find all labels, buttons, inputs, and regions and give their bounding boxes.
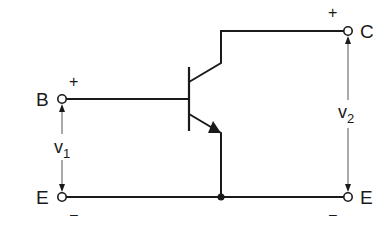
label-emitter-right: E	[360, 187, 373, 208]
terminal-collector	[344, 27, 352, 35]
output-minus-sign: –	[329, 206, 337, 222]
terminal-emitter-right	[344, 193, 352, 201]
input-minus-sign: –	[70, 206, 78, 222]
output-plus-sign: +	[328, 4, 337, 21]
label-base: B	[36, 89, 49, 110]
junction-dot	[218, 194, 225, 201]
transistor-circuit-diagram: B E C E + – + – v1 v2	[0, 0, 390, 238]
v1-arrowhead-up-icon	[59, 104, 65, 112]
v2-label: v2	[338, 102, 354, 126]
input-plus-sign: +	[69, 73, 78, 90]
label-collector: C	[360, 21, 374, 42]
v2-arrowhead-up-icon	[345, 36, 351, 44]
collector-lead	[189, 31, 344, 82]
terminal-base	[58, 95, 66, 103]
v2-arrowhead-down-icon	[345, 184, 351, 192]
v1-label: v1	[54, 137, 70, 161]
label-emitter-left: E	[36, 187, 49, 208]
v1-arrowhead-down-icon	[59, 184, 65, 192]
terminal-emitter-left	[58, 193, 66, 201]
